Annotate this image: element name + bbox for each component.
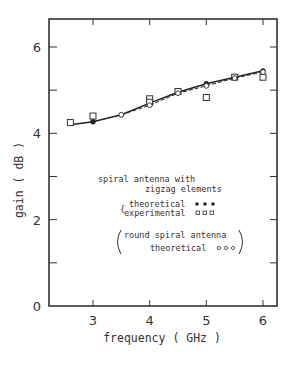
- legend-round-theoretical-symbol: [217, 246, 234, 249]
- x-axis-title: frequency ( GHz ): [103, 331, 221, 345]
- legend-paren-left: [118, 230, 122, 254]
- data-point: [90, 119, 95, 124]
- y-tick-label: 6: [33, 40, 41, 55]
- x-tick-label: 5: [202, 313, 210, 328]
- y-tick-label: 0: [33, 299, 41, 314]
- legend-paren-right: [239, 230, 243, 254]
- data-point: [232, 76, 237, 81]
- y-tick-label: 2: [33, 213, 41, 228]
- data-point: [67, 120, 73, 126]
- legend-heading-line1: spiral antenna with: [98, 174, 195, 184]
- data-point: [176, 91, 181, 96]
- data-point: [261, 70, 266, 75]
- y-tick-label: 4: [33, 126, 41, 141]
- legend: spiral antenna with zigzag elements { th…: [98, 174, 243, 254]
- legend-theoretical-symbol: [195, 202, 215, 206]
- data-point: [90, 113, 96, 119]
- x-tick-label: 3: [89, 313, 97, 328]
- legend-experimental-label: experimental: [124, 208, 185, 218]
- plot-frame: [49, 19, 277, 306]
- legend-heading-line2: zigzag elements: [145, 184, 222, 194]
- data-point: [204, 83, 209, 88]
- legend-round-theoretical-label: theoretical: [150, 243, 206, 253]
- x-tick-label: 6: [259, 313, 267, 328]
- legend-experimental-symbol: [196, 211, 214, 215]
- y-axis-title: gain ( dB ): [12, 142, 26, 218]
- gain-vs-frequency-chart: 3456 0246 frequency ( GHz ) gain ( dB ) …: [0, 0, 293, 365]
- legend-round-spiral-label: round spiral antenna: [124, 230, 226, 240]
- series-1: [67, 74, 266, 125]
- x-tick-label: 4: [146, 313, 154, 328]
- data-point: [260, 74, 266, 80]
- data-point: [119, 112, 124, 117]
- series-2: [119, 70, 265, 118]
- data-point: [203, 95, 209, 101]
- data-series: [67, 68, 266, 125]
- data-point: [147, 103, 152, 108]
